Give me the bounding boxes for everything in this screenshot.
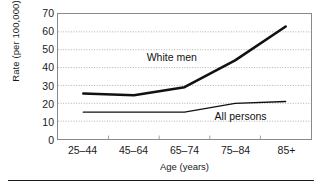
y-tick-label: 20: [4, 99, 54, 109]
x-axis-tick-labels: 25–4445–6465–7475–8485+: [57, 144, 312, 160]
plot-area: [57, 13, 312, 140]
bottom-rule: [8, 180, 314, 181]
y-tick-label: 0: [4, 135, 54, 145]
x-tick-label: 75–84: [221, 144, 250, 156]
y-tick-label: 50: [4, 44, 54, 54]
x-tick-label: 85+: [278, 144, 296, 156]
series-lines: [58, 14, 311, 139]
x-tick-label: 45–64: [119, 144, 148, 156]
y-tick-label: 70: [4, 8, 54, 18]
y-tick-label: 30: [4, 81, 54, 91]
x-tick-label: 65–74: [170, 144, 199, 156]
y-axis-tick-labels: 010203040506070: [0, 0, 54, 189]
series-annotation: All persons: [215, 110, 267, 122]
y-tick-label: 60: [4, 26, 54, 36]
x-tick-label: 25–44: [68, 144, 97, 156]
series-annotation: White men: [147, 51, 197, 63]
y-tick-label: 40: [4, 62, 54, 72]
y-tick-label: 10: [4, 117, 54, 127]
chart-figure: Rate (per 100,000) 010203040506070 25–44…: [0, 0, 322, 189]
x-axis-title: Age (years): [57, 161, 312, 172]
